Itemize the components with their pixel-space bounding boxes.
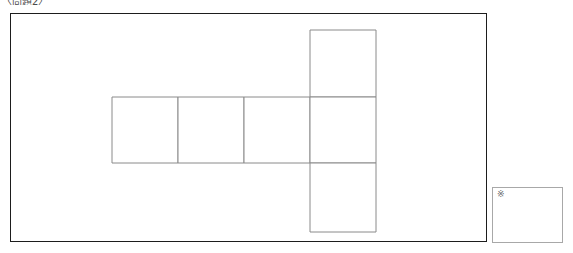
cube-net-diagram	[11, 14, 488, 243]
reference-mark-icon: ※	[497, 189, 505, 199]
cube-net-cell-row-square-1	[112, 97, 178, 163]
cube-net-cell-row-square-2	[178, 97, 244, 163]
cube-net-cell-column-square-top	[310, 30, 376, 97]
answer-box[interactable]: ※	[492, 187, 563, 243]
figure-frame	[10, 13, 487, 242]
cube-net-cells	[112, 30, 376, 232]
cube-net-cell-column-square-middle	[310, 97, 376, 163]
cube-net-cell-row-square-3	[244, 97, 310, 163]
problem-label: 〈問題2〉	[2, 0, 48, 5]
cube-net-cell-column-square-bottom	[310, 163, 376, 232]
